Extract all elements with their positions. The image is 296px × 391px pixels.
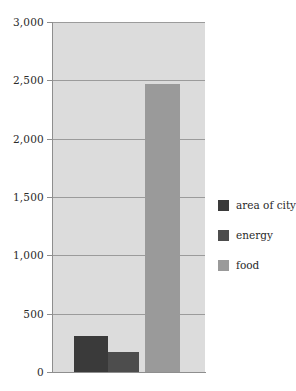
y-tick-label-0: 0 [37,366,44,378]
legend-label-area-of-city: area of city [236,200,296,211]
y-tick-mark-500 [47,314,53,315]
gridline-2500 [53,80,205,81]
legend-item-area-of-city: area of city [218,190,296,220]
gridline-2000 [53,139,205,140]
x-axis-line [52,372,206,373]
legend-label-energy: energy [236,230,273,241]
bar-energy [108,352,139,372]
bar-chart-figure: 3,000 2,500 2,000 1,500 1,000 500 0 area… [0,0,296,391]
y-tick-mark-2500 [47,80,53,81]
y-tick-label-1500: 1,500 [13,191,44,203]
legend-swatch-food [218,260,229,271]
legend-item-food: food [218,250,296,280]
y-tick-mark-1500 [47,197,53,198]
gridline-1000 [53,255,205,256]
y-tick-label-3000: 3,000 [13,16,44,28]
y-tick-mark-0 [47,372,53,373]
gridline-500 [53,314,205,315]
bar-food [145,84,180,372]
legend-label-food: food [236,260,259,271]
y-tick-label-1000: 1,000 [13,249,44,261]
chart-legend: area of city energy food [218,190,296,280]
legend-item-energy: energy [218,220,296,250]
y-tick-label-2500: 2,500 [13,74,44,86]
legend-swatch-area-of-city [218,200,229,211]
y-tick-label-500: 500 [23,308,44,320]
gridline-3000 [53,22,205,23]
y-tick-label-2000: 2,000 [13,133,44,145]
y-tick-mark-1000 [47,255,53,256]
y-tick-mark-3000 [47,22,53,23]
plot-area [53,22,205,372]
gridline-1500 [53,197,205,198]
legend-swatch-energy [218,230,229,241]
y-tick-mark-2000 [47,139,53,140]
bar-area-of-city [74,336,108,372]
